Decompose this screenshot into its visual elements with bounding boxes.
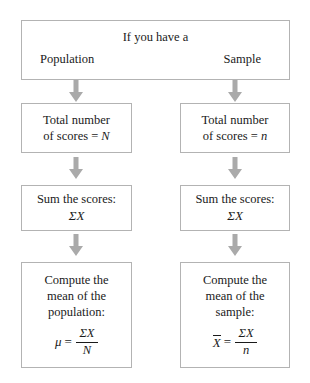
box-line: Total number [43,112,110,128]
box-line: Sum the scores: [37,191,116,207]
symbol-N: N [101,129,109,143]
formula-sample-mean: X = ΣX n [213,327,257,358]
formula-equals: = [65,334,72,351]
branch-label-population: Population [40,51,94,67]
box-line: population: [48,304,105,320]
formula-lhs-mu: μ [55,334,62,351]
fraction-numerator: ΣX [77,327,96,342]
box-line: Compute the [44,272,108,288]
fraction-numerator: ΣX [237,327,256,342]
arrow-down-icon [68,234,84,257]
header-box: If you have a Population Sample [21,20,290,80]
formula-lhs-x-bar: X [213,335,221,350]
box-line: of scores = N [43,128,109,144]
fraction: ΣX n [235,327,257,358]
branch-label-sample: Sample [224,51,262,67]
formula-population-mean: μ = ΣX N [55,327,98,358]
box-sample-mean: Compute the mean of the sample: X = ΣX n [180,262,290,368]
flowchart-diagram: If you have a Population Sample Total nu… [0,0,310,383]
box-line: Total number [202,112,269,128]
symbol-n: n [261,129,267,143]
arrow-down-icon [68,80,84,103]
box-population-total-scores: Total number of scores = N [21,103,132,153]
box-line-prefix: of scores = [203,129,258,143]
arrow-down-icon [68,157,84,180]
box-line: mean of the [47,288,106,304]
fraction-denominator: n [241,343,251,358]
box-line: mean of the [205,288,264,304]
box-population-mean: Compute the mean of the population: μ = … [21,262,132,368]
box-sample-sum-scores: Sum the scores: ΣX [180,185,290,231]
box-line-prefix: of scores = [43,129,98,143]
arrow-down-icon [227,157,243,180]
box-line: of scores = n [203,128,267,144]
fraction: ΣX N [76,327,98,358]
box-line: sample: [216,304,255,320]
arrow-down-icon [227,80,243,103]
header-title: If you have a [22,29,289,45]
box-population-sum-scores: Sum the scores: ΣX [21,185,132,231]
box-line: Sum the scores: [195,191,274,207]
sum-expression: ΣX [227,208,243,225]
sum-expression: ΣX [69,208,85,225]
box-line: Compute the [203,272,267,288]
formula-equals: = [224,334,231,351]
arrow-down-icon [227,234,243,257]
fraction-denominator: N [81,343,93,358]
box-sample-total-scores: Total number of scores = n [180,103,290,153]
